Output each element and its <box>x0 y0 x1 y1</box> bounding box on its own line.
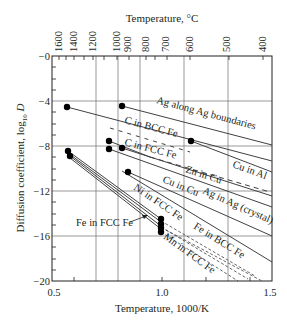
y-tick-20: −20 <box>34 276 50 287</box>
top-tick-800: 800 <box>140 36 151 52</box>
bottom-ticks <box>74 277 250 281</box>
top-tick-900: 900 <box>122 36 133 52</box>
line-ni-fcc-fe <box>68 151 161 219</box>
y-tick-8: −8 <box>39 141 50 152</box>
top-tick-1600: 1600 <box>53 31 64 52</box>
x-tick-labels: 0.5 1.0 1.5 <box>47 287 276 298</box>
top-tick-400: 400 <box>257 36 268 52</box>
label-zn-cu: Zn in Cu <box>184 163 224 185</box>
top-ticks <box>59 56 263 60</box>
label-c-bcc-fe: C in BCC Fe <box>123 114 179 139</box>
top-tick-600: 600 <box>184 36 195 52</box>
top-axis-title: Temperature, °C <box>126 12 199 24</box>
bottom-axis-title: Temperature, 1000/K <box>115 302 209 314</box>
top-tick-1000: 1000 <box>111 31 122 52</box>
label-cu-al: Cu in Al <box>231 159 268 182</box>
y-axis-title-end: D <box>14 104 26 115</box>
x-tick-1-5: 1.5 <box>263 287 276 298</box>
y-tick-4: −4 <box>39 96 51 107</box>
top-tick-500: 500 <box>221 36 232 52</box>
y-axis-title-main: Diffusion coefficient, log <box>14 121 26 233</box>
y-tick-12: −12 <box>34 186 50 197</box>
x-tick-0-5: 0.5 <box>47 287 60 298</box>
y-axis-title: Diffusion coefficient, log10 D <box>14 104 29 233</box>
y-tick-labels: −0 −4 −8 −12 −16 −20 <box>34 51 51 287</box>
left-ticks <box>52 67 56 270</box>
y-tick-0: −0 <box>39 51 50 62</box>
top-tick-labels: 1600 1400 1200 1000 900 800 700 600 500 … <box>53 31 268 52</box>
top-tick-1400: 1400 <box>68 31 79 52</box>
y-tick-16: −16 <box>34 231 50 242</box>
diffusion-chart: Temperature, °C 1600 1400 1200 1000 900 … <box>0 0 287 322</box>
top-tick-1200: 1200 <box>87 31 98 52</box>
top-tick-700: 700 <box>160 36 171 52</box>
label-fe-fcc-fe: Fe in FCC Fe <box>76 217 133 228</box>
x-tick-1-0: 1.0 <box>155 287 168 298</box>
